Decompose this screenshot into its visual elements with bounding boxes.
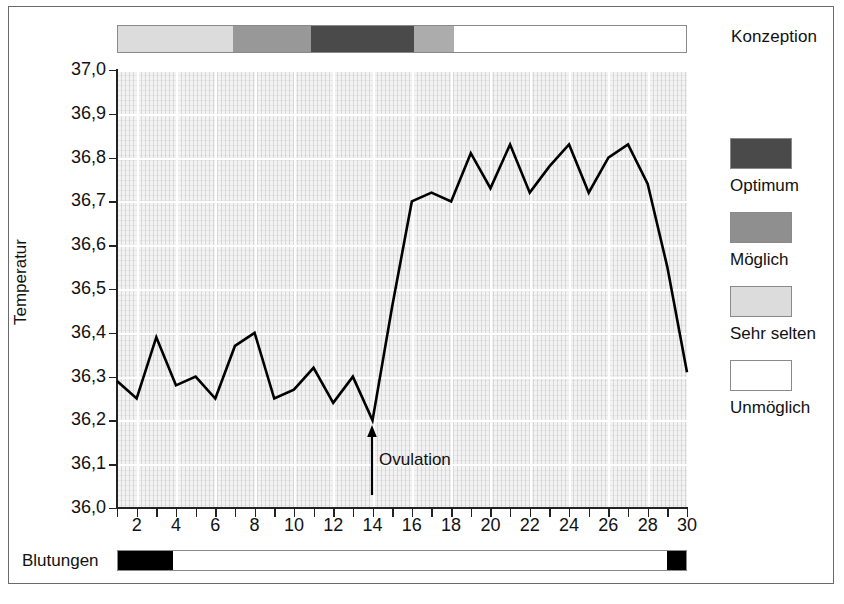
conception-band xyxy=(117,25,687,53)
x-tick-mark xyxy=(471,509,472,517)
y-tick-label: 36,2 xyxy=(48,409,106,430)
x-tick-mark xyxy=(156,509,157,517)
x-tick-label: 14 xyxy=(356,515,390,536)
x-tick-mark xyxy=(196,509,197,517)
y-tick-mark xyxy=(109,289,117,290)
legend-label: Optimum xyxy=(730,176,834,196)
x-tick-mark xyxy=(235,509,236,517)
x-tick-label: 18 xyxy=(434,515,468,536)
x-tick-label: 26 xyxy=(591,515,625,536)
legend-item: Möglich xyxy=(730,212,834,270)
x-tick-label: 16 xyxy=(395,515,429,536)
conception-segment-moeglich-1 xyxy=(233,26,311,52)
conception-segment-optimum xyxy=(311,26,414,52)
x-tick-mark xyxy=(569,509,570,517)
y-tick-mark xyxy=(109,377,117,378)
y-tick-mark xyxy=(109,158,117,159)
x-tick-mark xyxy=(589,509,590,517)
x-tick-mark xyxy=(628,509,629,517)
y-tick-label: 36,1 xyxy=(48,453,106,474)
x-tick-mark xyxy=(333,509,334,517)
y-tick-label: 36,9 xyxy=(48,103,106,124)
x-tick-mark xyxy=(667,509,668,517)
y-tick-label: 36,5 xyxy=(48,278,106,299)
bleeding-band xyxy=(117,550,687,571)
x-tick-label: 12 xyxy=(316,515,350,536)
bleeding-band-label: Blutungen xyxy=(22,551,99,571)
bleeding-segment-bleeding-end xyxy=(667,551,686,570)
x-tick-label: 28 xyxy=(631,515,665,536)
x-tick-label: 22 xyxy=(513,515,547,536)
x-tick-mark xyxy=(274,509,275,517)
bleeding-segment-bleeding-start xyxy=(118,551,173,570)
x-tick-mark xyxy=(530,509,531,517)
x-tick-mark xyxy=(373,509,374,517)
x-tick-mark xyxy=(117,509,118,517)
series-line-Basaltemperatur xyxy=(117,144,687,420)
bleeding-segment-no-bleeding xyxy=(173,551,667,570)
y-tick-label: 36,3 xyxy=(48,366,106,387)
legend: OptimumMöglichSehr seltenUnmöglich xyxy=(730,138,834,434)
conception-segment-moeglich-2 xyxy=(414,26,454,52)
legend-item: Sehr selten xyxy=(730,286,834,344)
x-tick-label: 20 xyxy=(473,515,507,536)
y-tick-mark xyxy=(109,420,117,421)
legend-item: Optimum xyxy=(730,138,834,196)
ovulation-label: Ovulation xyxy=(379,450,451,470)
temperature-chart-figure: Konzeption 36,036,136,236,336,436,536,63… xyxy=(0,0,844,604)
conception-segment-sehr-selten xyxy=(118,26,233,52)
x-tick-mark xyxy=(176,509,177,517)
y-tick-mark xyxy=(109,245,117,246)
x-tick-mark xyxy=(451,509,452,517)
legend-label: Unmöglich xyxy=(730,398,834,418)
x-tick-mark xyxy=(687,509,688,517)
legend-label: Sehr selten xyxy=(730,324,834,344)
y-tick-label: 36,0 xyxy=(48,497,106,518)
gridline-vertical xyxy=(687,70,689,508)
y-tick-label: 36,4 xyxy=(48,322,106,343)
x-tick-mark xyxy=(353,509,354,517)
legend-item: Unmöglich xyxy=(730,360,834,418)
conception-band-label: Konzeption xyxy=(731,27,817,47)
y-tick-mark xyxy=(109,201,117,202)
x-tick-mark xyxy=(314,509,315,517)
y-axis-title: Temperatur xyxy=(11,202,31,362)
legend-swatch xyxy=(730,360,792,391)
y-tick-mark xyxy=(109,508,117,509)
x-tick-label: 4 xyxy=(159,515,193,536)
ovulation-arrow-icon xyxy=(366,425,378,495)
x-tick-mark xyxy=(294,509,295,517)
legend-swatch xyxy=(730,138,792,169)
temperature-line-series xyxy=(117,70,687,508)
legend-swatch xyxy=(730,286,792,317)
conception-segment-unmoeglich xyxy=(454,26,686,52)
x-tick-mark xyxy=(412,509,413,517)
x-tick-label: 6 xyxy=(198,515,232,536)
x-tick-mark xyxy=(431,509,432,517)
x-tick-label: 30 xyxy=(670,515,704,536)
y-tick-label: 36,6 xyxy=(48,234,106,255)
y-tick-label: 37,0 xyxy=(48,59,106,80)
y-axis-tick-labels: 36,036,136,236,336,436,536,636,736,836,9… xyxy=(44,0,106,604)
x-tick-mark xyxy=(215,509,216,517)
y-tick-mark xyxy=(109,114,117,115)
x-tick-mark xyxy=(490,509,491,517)
x-tick-mark xyxy=(608,509,609,517)
legend-swatch xyxy=(730,212,792,243)
y-tick-label: 36,8 xyxy=(48,147,106,168)
x-tick-mark xyxy=(137,509,138,517)
x-tick-mark xyxy=(648,509,649,517)
x-tick-mark xyxy=(549,509,550,517)
x-tick-mark xyxy=(255,509,256,517)
y-tick-label: 36,7 xyxy=(48,190,106,211)
x-tick-mark xyxy=(392,509,393,517)
y-tick-mark xyxy=(109,464,117,465)
x-tick-label: 2 xyxy=(120,515,154,536)
x-tick-label: 24 xyxy=(552,515,586,536)
y-tick-mark xyxy=(109,70,117,71)
x-tick-mark xyxy=(510,509,511,517)
legend-label: Möglich xyxy=(730,250,834,270)
y-tick-mark xyxy=(109,333,117,334)
x-tick-label: 10 xyxy=(277,515,311,536)
x-tick-label: 8 xyxy=(238,515,272,536)
